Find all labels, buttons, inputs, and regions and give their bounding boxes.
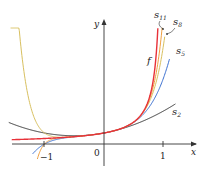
curve-s5	[33, 59, 170, 154]
curve-s2	[9, 104, 176, 136]
label-s8: s8	[173, 16, 182, 28]
y-axis-arrow-icon	[102, 19, 107, 25]
x-axis-arrow-icon	[191, 142, 197, 147]
label-s2: s2	[172, 106, 181, 118]
label-f: f	[146, 55, 153, 66]
y-axis-label: y	[93, 19, 100, 29]
tick-label-0: 0	[94, 148, 100, 158]
tick-label-1: 1	[160, 151, 166, 161]
curve-s8	[11, 28, 165, 137]
x-axis-label: x	[191, 147, 196, 157]
pointer-s8	[167, 28, 175, 34]
pointer-dot-s8	[166, 33, 168, 35]
curve-f	[12, 28, 158, 139]
plot-area: x y 0 1 −1 f s11 s8 s5 s2	[0, 0, 207, 175]
label-s11: s11	[154, 9, 167, 21]
label-s5: s5	[176, 45, 185, 57]
tick-label-neg1: −1	[40, 152, 53, 162]
chart-figure: x y 0 1 −1 f s11 s8 s5 s2	[0, 0, 207, 175]
curves	[9, 28, 176, 159]
pointer-dot-s11	[162, 28, 164, 30]
